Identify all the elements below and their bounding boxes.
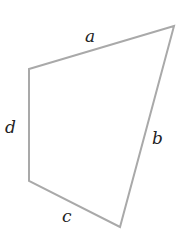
quadrilateral-shape (29, 26, 174, 227)
side-label-b: b (152, 128, 163, 148)
side-label-a: a (85, 26, 95, 46)
side-label-d: d (5, 117, 16, 137)
side-label-c: c (62, 206, 72, 226)
quadrilateral-diagram: a b c d (0, 0, 182, 231)
